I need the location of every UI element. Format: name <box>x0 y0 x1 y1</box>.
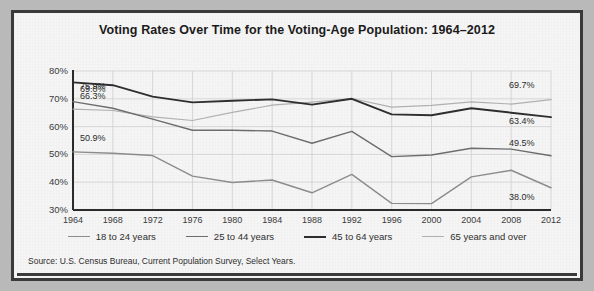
y-tick-label: 30% <box>38 204 68 215</box>
x-tick-label: 1980 <box>215 215 249 225</box>
end-value-label: 69.7% <box>509 80 535 90</box>
legend-label: 18 to 24 years <box>96 231 156 242</box>
x-tick-label: 1972 <box>136 215 170 225</box>
x-tick-label: 1964 <box>56 215 90 225</box>
chart-legend: 18 to 24 years25 to 44 years45 to 64 yea… <box>14 231 580 242</box>
legend-label: 25 to 44 years <box>214 231 274 242</box>
y-tick-label: 70% <box>38 93 68 104</box>
y-tick-label: 60% <box>38 121 68 132</box>
legend-item[interactable]: 25 to 44 years <box>186 231 274 242</box>
x-tick-label: 1984 <box>255 215 289 225</box>
legend-item[interactable]: 18 to 24 years <box>68 231 156 242</box>
chart-frame: Voting Rates Over Time for the Voting-Ag… <box>11 10 583 281</box>
start-value-label: 66.3% <box>80 91 106 101</box>
x-tick-label: 2004 <box>454 215 488 225</box>
x-tick-label: 2012 <box>534 215 568 225</box>
legend-swatch-icon <box>186 236 208 237</box>
x-tick-label: 1988 <box>295 215 329 225</box>
y-tick-label: 40% <box>38 176 68 187</box>
legend-swatch-icon <box>422 236 444 237</box>
y-tick-label: 80% <box>38 65 68 76</box>
y-tick-label: 50% <box>38 148 68 159</box>
start-value-label: 50.9% <box>80 133 106 143</box>
legend-item[interactable]: 45 to 64 years <box>304 231 392 242</box>
x-tick-label: 1992 <box>335 215 369 225</box>
plot-area <box>14 13 586 284</box>
x-tick-label: 2008 <box>494 215 528 225</box>
legend-swatch-icon <box>68 236 90 237</box>
x-tick-label: 1976 <box>176 215 210 225</box>
end-value-label: 49.5% <box>509 138 535 148</box>
chart-svg <box>14 13 586 284</box>
x-tick-label: 1968 <box>96 215 130 225</box>
end-value-label: 38.0% <box>509 192 535 202</box>
x-tick-label: 1996 <box>375 215 409 225</box>
legend-label: 65 years and over <box>450 231 526 242</box>
source-note: Source: U.S. Census Bureau, Current Popu… <box>28 256 295 266</box>
footer-rule <box>17 273 577 276</box>
legend-swatch-icon <box>304 236 326 238</box>
x-tick-label: 2000 <box>415 215 449 225</box>
legend-label: 45 to 64 years <box>332 231 392 242</box>
end-value-label: 63.4% <box>509 116 535 126</box>
start-value-label: 75.9% <box>80 81 106 91</box>
legend-item[interactable]: 65 years and over <box>422 231 526 242</box>
